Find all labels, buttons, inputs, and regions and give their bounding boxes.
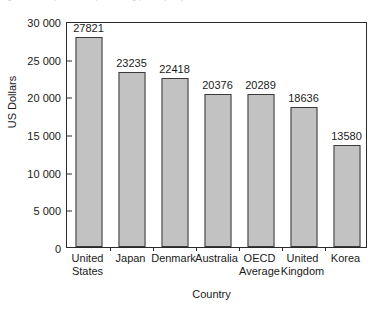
plot-area: 05 00010 00015 00020 00025 00030 000 278… — [66, 22, 367, 248]
bar-group: 20289 — [239, 23, 282, 247]
x-axis-tick-mark — [153, 247, 154, 251]
category-label-line: OECD — [239, 252, 280, 265]
cropped-caption-remnant: figures are expressed in purchasing powe… — [0, 0, 380, 8]
y-axis-tick-label: 0 — [1, 244, 61, 255]
category-label-line: Denmark — [151, 252, 196, 265]
bar-value-label: 20376 — [202, 80, 233, 91]
y-axis-tick-label: 30 000 — [1, 18, 61, 29]
x-axis-title: Country — [55, 288, 368, 300]
x-axis-tick-mark — [196, 247, 197, 251]
category-label-line: Average — [239, 265, 280, 278]
x-axis-tick-mark — [282, 247, 283, 251]
caption-remnant-text: figures are expressed in purchasing powe… — [0, 0, 185, 1]
x-axis-tick-mark — [325, 247, 326, 251]
category-label-line: Australia — [195, 252, 238, 265]
x-axis-category-label: Korea — [331, 252, 360, 265]
bar-value-label: 27821 — [73, 23, 104, 34]
bar[interactable] — [161, 78, 188, 247]
y-axis-tick-label: 15 000 — [1, 131, 61, 142]
x-axis-category-label: Denmark — [151, 252, 196, 265]
bar-value-label: 20289 — [245, 80, 276, 91]
bar-value-label: 13580 — [331, 131, 362, 142]
y-axis-tick-label: 20 000 — [1, 93, 61, 104]
bar[interactable] — [75, 37, 102, 247]
bar-group: 27821 — [67, 23, 110, 247]
category-label-line: Korea — [331, 252, 360, 265]
category-label-line: United — [72, 252, 104, 265]
bar-value-label: 23235 — [116, 58, 147, 69]
x-axis-tick-mark — [110, 247, 111, 251]
x-axis-tick-mark — [239, 247, 240, 251]
category-label-line: United — [281, 252, 324, 265]
x-axis-category-label: Australia — [195, 252, 238, 265]
bar-chart-figure: figures are expressed in purchasing powe… — [0, 0, 380, 312]
category-label-line: Kingdom — [281, 265, 324, 278]
bar[interactable] — [333, 145, 360, 247]
bar-group: 18636 — [282, 23, 325, 247]
y-axis-tick-label: 5 000 — [1, 206, 61, 217]
y-axis-tick-label: 10 000 — [1, 168, 61, 179]
y-axis-tick-label: 25 000 — [1, 55, 61, 66]
bar[interactable] — [204, 94, 231, 247]
bar-group: 23235 — [110, 23, 153, 247]
bar-value-label: 22418 — [159, 64, 190, 75]
bars-layer: 27821232352241820376202891863613580 — [67, 23, 366, 247]
x-axis-category-label: OECDAverage — [239, 252, 280, 277]
category-label-line: States — [72, 265, 104, 278]
bar-group: 20376 — [196, 23, 239, 247]
bar-group: 13580 — [325, 23, 368, 247]
bar[interactable] — [118, 72, 145, 247]
bar[interactable] — [247, 94, 274, 247]
bar-value-label: 18636 — [288, 93, 319, 104]
x-axis-category-label: UnitedKingdom — [281, 252, 324, 277]
category-label-line: Japan — [116, 252, 146, 265]
x-axis-category-label: UnitedStates — [72, 252, 104, 277]
x-axis-category-label: Japan — [116, 252, 146, 265]
bar-group: 22418 — [153, 23, 196, 247]
bar[interactable] — [290, 107, 317, 247]
